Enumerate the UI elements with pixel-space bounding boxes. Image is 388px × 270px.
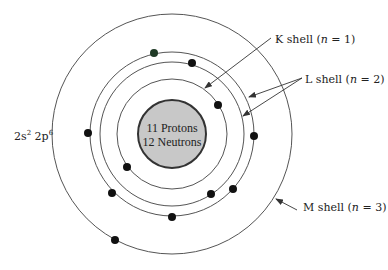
electron (207, 190, 215, 198)
arrow (249, 78, 302, 97)
electron (111, 236, 119, 244)
electron (84, 129, 92, 137)
l-shell-label: L shell (n = 2) (305, 74, 384, 85)
electron (214, 101, 222, 109)
arrow (205, 38, 271, 88)
arrow (243, 78, 302, 116)
m-shell-label: M shell (n = 3) (303, 202, 386, 213)
electron (229, 185, 237, 193)
k-shell-label: K shell (n = 1) (275, 34, 355, 45)
electron (188, 59, 196, 67)
neutrons-label: 12 Neutrons (138, 135, 206, 149)
nucleus-label: 11 Protons 12 Neutrons (138, 121, 206, 149)
electron (150, 49, 158, 57)
electron (108, 189, 116, 197)
arrow (276, 199, 297, 210)
electron (250, 132, 258, 140)
protons-label: 11 Protons (138, 121, 206, 135)
electron (168, 213, 176, 221)
electron (123, 163, 131, 171)
electron-config-label: 2s2 2p6 (14, 131, 53, 142)
